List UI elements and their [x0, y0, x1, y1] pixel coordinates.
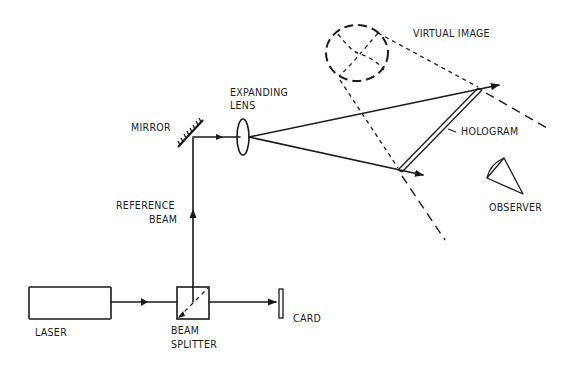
- beam-splitter-label-2: SPLITTER: [171, 338, 217, 350]
- mirror: [178, 118, 203, 147]
- beam-splitter-label-1: BEAM: [171, 324, 199, 336]
- laser: [29, 287, 111, 319]
- observer: [487, 158, 523, 194]
- beam-laser-to-splitter: [111, 298, 177, 306]
- arrow-icon: [216, 134, 223, 140]
- card-label: CARD: [293, 312, 321, 324]
- reference-beam-label-1: REFERENCE: [116, 199, 175, 211]
- arrow-icon: [141, 298, 148, 306]
- virtual-image-label: VIRTUAL IMAGE: [413, 27, 490, 39]
- mirror-label: MIRROR: [131, 121, 171, 133]
- hologram-leader-line: [448, 129, 456, 132]
- hologram-label: HOLOGRAM: [461, 125, 518, 137]
- beam-mirror-to-lens: [193, 134, 240, 140]
- laser-label: LASER: [35, 326, 67, 338]
- reference-beam-label-2: BEAM: [149, 213, 177, 225]
- expanding-lens-label-1: EXPANDING: [230, 86, 288, 98]
- observer-label: OBSERVER: [489, 201, 542, 213]
- virtual-image: [326, 25, 388, 81]
- expanding-lens-label-2: LENS: [230, 99, 256, 111]
- holography-diagram: LASER BEAM SPLITTER CARD REFERENCE BE: [0, 0, 572, 371]
- reference-beam: [190, 138, 197, 302]
- card: [279, 289, 283, 318]
- arrow-icon: [190, 209, 197, 218]
